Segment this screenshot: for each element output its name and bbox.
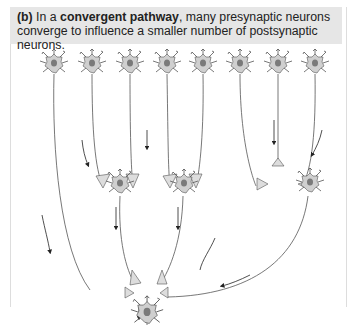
- intermediate-neuron: [296, 168, 324, 192]
- presynaptic-neuron: [153, 49, 181, 73]
- presynaptic-neuron: [40, 49, 68, 73]
- presynaptic-neuron: [116, 49, 144, 73]
- presynaptic-neuron: [189, 49, 217, 73]
- direction-arrows: [42, 120, 322, 318]
- synaptic-terminals: [96, 158, 310, 298]
- postsynaptic-neuron: [131, 296, 163, 324]
- presynaptic-neuron: [301, 49, 329, 73]
- convergent-pathway-diagram: [0, 0, 364, 329]
- axons: [54, 74, 315, 325]
- presynaptic-neurons: [40, 49, 329, 73]
- presynaptic-neuron: [264, 49, 292, 73]
- presynaptic-neuron: [226, 49, 254, 73]
- intermediate-neurons: [106, 168, 324, 193]
- presynaptic-neuron: [78, 49, 106, 73]
